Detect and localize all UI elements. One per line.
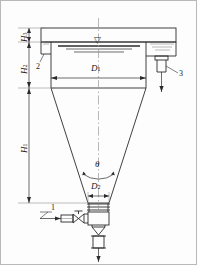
inlet-pipe-spool bbox=[61, 215, 73, 222]
inlet-gate-valve bbox=[73, 211, 88, 223]
tank-lid bbox=[41, 28, 176, 42]
inlet-flow-arrow bbox=[40, 216, 61, 220]
overflow-pocket bbox=[146, 42, 176, 56]
shell-corner-detail bbox=[41, 42, 51, 54]
dimension-label-d2: D2 bbox=[91, 182, 101, 191]
dimension-label-h2: H2 bbox=[20, 65, 29, 75]
leader-line-2 bbox=[40, 54, 44, 62]
valve-tee-body bbox=[88, 212, 109, 225]
callout-label-2: 2 bbox=[36, 63, 40, 71]
overflow-nozzle bbox=[155, 56, 168, 72]
discharge-pipe-spool bbox=[91, 236, 106, 248]
dimension-label-h3: H3 bbox=[20, 33, 29, 43]
discharge-gate-valve bbox=[92, 225, 105, 235]
extension-lines bbox=[18, 28, 88, 203]
callout-label-3: 3 bbox=[179, 70, 183, 78]
discharge-flow-arrow bbox=[96, 248, 100, 262]
dimension-label-theta: θ bbox=[95, 160, 99, 169]
callout-label-1: 1 bbox=[51, 204, 55, 212]
liquid-level-symbol: ▽ bbox=[94, 36, 101, 45]
leader-line-3 bbox=[166, 66, 178, 73]
diagram-canvas: H3 H2 H1 D1 D2 θ 1 2 3 ▽ bbox=[0, 0, 198, 266]
dimension-label-h1: H1 bbox=[20, 144, 29, 154]
leader-line-1 bbox=[40, 212, 52, 219]
overflow-discharge-arrow bbox=[159, 72, 163, 92]
liquid-surface-lines bbox=[58, 46, 140, 52]
dimension-label-d1: D1 bbox=[91, 64, 101, 73]
